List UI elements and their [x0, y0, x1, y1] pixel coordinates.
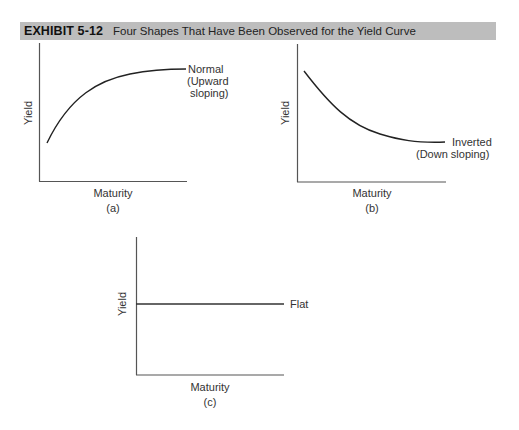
panel-caption: (a)	[106, 202, 119, 214]
y-axis-label: Yield	[116, 292, 128, 316]
curve-label: (Down sloping)	[416, 148, 489, 160]
panel-caption: (c)	[204, 396, 217, 408]
panel-c: Flat Yield Maturity (c)	[116, 237, 308, 408]
x-axis-label: Maturity	[352, 187, 392, 199]
panel-b: Inverted (Down sloping) Yield Maturity (…	[279, 44, 492, 214]
curve-label: (Upward	[187, 75, 229, 87]
curve-label: Inverted	[452, 136, 492, 148]
y-axis-label: Yield	[279, 101, 291, 125]
panel-a: Normal (Upward sloping) Yield Maturity (…	[22, 43, 229, 214]
panel-caption: (b)	[365, 202, 378, 214]
x-axis-label: Maturity	[93, 187, 133, 199]
x-axis-label: Maturity	[190, 381, 230, 393]
curve-label: Flat	[290, 298, 308, 310]
y-axis-label: Yield	[22, 101, 34, 125]
curve-label: sloping)	[190, 87, 229, 99]
normal-curve	[47, 69, 186, 143]
inverted-curve	[304, 71, 445, 142]
yield-curve-figure: Normal (Upward sloping) Yield Maturity (…	[0, 0, 519, 430]
curve-label: Normal	[188, 63, 223, 75]
